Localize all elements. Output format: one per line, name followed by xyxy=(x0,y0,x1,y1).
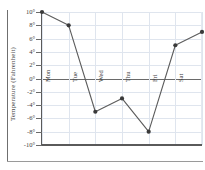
y-tick-label: -10° xyxy=(24,142,35,149)
y-tick-label: 4° xyxy=(29,49,35,56)
y-tick-label: 6° xyxy=(29,35,35,42)
y-tick-label: 10° xyxy=(26,9,35,16)
plot-area: MonTueWedThuFriSatSun xyxy=(42,12,202,145)
y-tick-label: -6° xyxy=(27,115,35,122)
data-point-wed[interactable] xyxy=(93,110,97,114)
data-point-mon[interactable] xyxy=(40,10,44,14)
y-axis-tick-labels: 10°8°6°4°2°0°-2°-4°-6°-8°-10° xyxy=(0,0,35,170)
y-tick-label: -8° xyxy=(27,128,35,135)
data-point-thu[interactable] xyxy=(120,96,124,100)
x-category-label-sat: Sat xyxy=(178,73,185,81)
x-category-label-wed: Wed xyxy=(98,70,105,82)
chart-container: Temperature (Fahrenheit) 10°8°6°4°2°0°-2… xyxy=(0,0,205,170)
y-tick-label: 2° xyxy=(29,62,35,69)
x-category-label-mon: Mon xyxy=(45,69,52,81)
x-category-label-thu: Thu xyxy=(125,71,132,81)
y-tick-label: -4° xyxy=(27,102,35,109)
series-line xyxy=(42,12,202,132)
x-category-label-tue: Tue xyxy=(72,72,79,82)
data-point-sun[interactable] xyxy=(200,30,204,34)
y-tick-label: -2° xyxy=(27,89,35,96)
x-category-label-fri: Fri xyxy=(152,74,159,82)
data-point-sat[interactable] xyxy=(173,43,177,47)
y-tick-label: 8° xyxy=(29,22,35,29)
data-point-tue[interactable] xyxy=(67,23,71,27)
y-tick-label: 0° xyxy=(29,75,35,82)
data-point-fri[interactable] xyxy=(147,130,151,134)
outer-frame-bottom-edge xyxy=(7,161,203,162)
